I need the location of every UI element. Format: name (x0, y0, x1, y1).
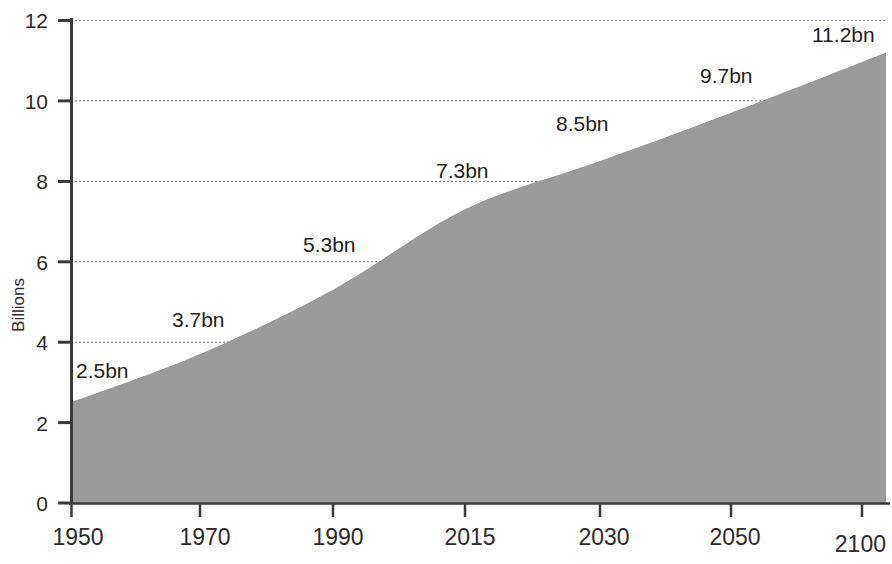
y-tick-label-0: 0 (36, 492, 48, 515)
value-label-2015: 7.3bn (436, 159, 489, 182)
x-tick-label-1950: 1950 (52, 524, 103, 550)
y-tick-marks (58, 21, 71, 504)
y-tick-label-12: 12 (25, 9, 48, 32)
chart-canvas: 12 10 8 6 4 2 0 1950 1970 1990 2015 2030… (0, 0, 892, 564)
value-label-1970: 3.7bn (172, 308, 225, 331)
y-tick-label-6: 6 (36, 251, 48, 274)
y-axis-title: Billions (9, 278, 28, 332)
y-tick-label-2: 2 (36, 412, 48, 435)
x-tick-marks (72, 503, 863, 517)
population-area-chart: 12 10 8 6 4 2 0 1950 1970 1990 2015 2030… (0, 0, 892, 564)
value-label-2030: 8.5bn (556, 112, 609, 135)
x-tick-label-2100: 2100 (835, 531, 886, 557)
y-tick-label-4: 4 (36, 331, 48, 354)
x-tick-label-1970: 1970 (179, 524, 230, 550)
value-label-2100: 11.2bn (812, 23, 875, 46)
value-label-2050: 9.7bn (700, 64, 753, 87)
x-tick-label-2030: 2030 (578, 524, 629, 550)
x-tick-label-1990: 1990 (312, 524, 363, 550)
area-series-outline (71, 53, 886, 503)
y-tick-label-10: 10 (25, 90, 48, 113)
y-tick-label-8: 8 (36, 170, 48, 193)
value-label-1990: 5.3bn (303, 233, 356, 256)
x-tick-label-2015: 2015 (444, 524, 495, 550)
x-tick-label-2050: 2050 (709, 524, 760, 550)
value-label-1950: 2.5bn (76, 359, 129, 382)
